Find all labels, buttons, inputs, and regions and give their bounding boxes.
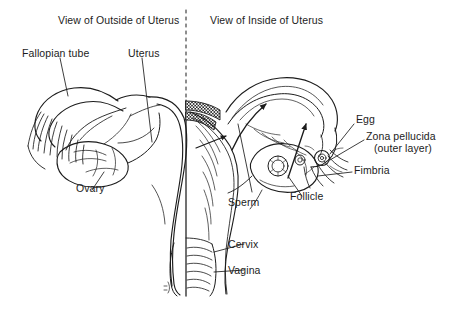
cervix-vagina: [170, 238, 216, 296]
label-zona-pellucida: Zona pellucida (outer layer): [366, 130, 436, 154]
label-sperm: Sperm: [228, 196, 259, 208]
uterus-body: [116, 95, 187, 296]
fimbriae-left: [28, 112, 84, 164]
label-vagina: Vagina: [228, 264, 261, 276]
anatomy-figure: View of Outside of Uterus View of Inside…: [0, 0, 460, 309]
title-right: View of Inside of Uterus: [210, 14, 323, 26]
label-zona-pellucida-line2: (outer layer): [374, 142, 432, 154]
label-uterus: Uterus: [128, 47, 160, 59]
ovary-right: [250, 144, 318, 193]
label-fimbria: Fimbria: [354, 164, 390, 176]
egg-and-zona: [305, 146, 343, 174]
label-cervix: Cervix: [228, 238, 258, 250]
left-external-view: [28, 88, 165, 248]
artist-mark: [164, 282, 170, 293]
label-fallopian-tube: Fallopian tube: [22, 47, 89, 59]
label-zona-pellucida-line1: Zona pellucida: [366, 130, 436, 142]
label-follicle: Follicle: [290, 190, 323, 202]
sperm-around-egg: [305, 146, 343, 174]
cut-plane-shading: [186, 101, 220, 130]
ovary-left: [57, 142, 128, 187]
vaginal-rugae: [187, 247, 212, 291]
fimbriae-right: [304, 150, 348, 188]
follicle-shape: [268, 156, 288, 176]
title-left: View of Outside of Uterus: [58, 14, 179, 26]
label-ovary: Ovary: [76, 182, 105, 194]
label-egg: Egg: [356, 113, 375, 125]
endometrium-striations: [193, 118, 220, 240]
